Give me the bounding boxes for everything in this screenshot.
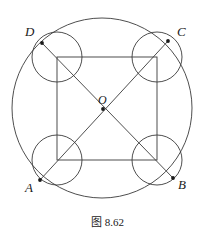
vertex-label-d: D	[25, 25, 34, 38]
point-marker-c	[166, 39, 170, 43]
vertex-label-a: A	[25, 181, 33, 194]
point-marker-d	[40, 41, 44, 45]
inner-square	[57, 57, 157, 160]
vertex-label-o: O	[98, 94, 107, 106]
geometry-figure: D C A B O 图 8.62	[0, 0, 215, 239]
vertex-label-b: B	[178, 178, 186, 191]
point-marker-o	[101, 107, 105, 111]
vertex-label-c: C	[177, 25, 186, 38]
point-marker-a	[38, 178, 42, 182]
point-marker-b	[171, 176, 175, 180]
diagonal-line-bd	[42, 43, 173, 178]
figure-caption: 图 8.62	[0, 216, 215, 228]
